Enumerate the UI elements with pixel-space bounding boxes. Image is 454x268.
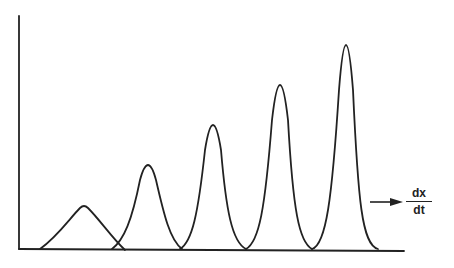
fraction-denominator: dt <box>406 202 432 217</box>
peak-1 <box>40 206 125 250</box>
chromatogram-diagram <box>0 0 454 268</box>
peak-4 <box>246 85 312 249</box>
peak-2 <box>112 165 182 249</box>
x-axis <box>19 249 404 251</box>
peak-5 <box>312 45 378 249</box>
arrow-icon <box>370 198 403 206</box>
fraction-numerator: dx <box>406 186 432 202</box>
peak-3 <box>180 125 246 249</box>
dx-dt-label: dx dt <box>406 186 432 217</box>
